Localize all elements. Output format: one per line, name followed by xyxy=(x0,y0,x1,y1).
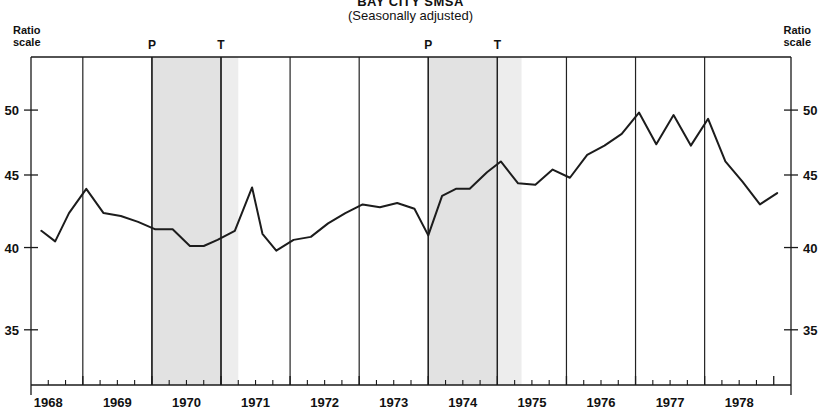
y-axis-label-right: 35 xyxy=(803,323,817,338)
x-axis-label-year: 1976 xyxy=(587,395,616,410)
chart-plot-area: 5050454540403535 19681969197019711972197… xyxy=(0,0,821,412)
x-axis-label-year: 1971 xyxy=(241,395,270,410)
recession-1969-1970 xyxy=(152,57,221,385)
recession-1973-1975 xyxy=(428,57,497,385)
cycle-marker-trough: T xyxy=(217,38,225,52)
x-axis-label-year: 1970 xyxy=(172,395,201,410)
cycle-marker-peak: P xyxy=(424,38,432,52)
x-axis-label-year: 1968 xyxy=(34,395,63,410)
y-axis-ticks-layer xyxy=(24,110,798,330)
y-axis-label-left: 35 xyxy=(5,323,19,338)
x-axis-labels-layer: 1968196919701971197219731974197519761977… xyxy=(34,395,754,410)
plot-frame xyxy=(31,57,791,395)
y-axis-label-left: 40 xyxy=(5,241,19,256)
x-axis-label-year: 1969 xyxy=(103,395,132,410)
y-axis-label-right: 45 xyxy=(803,168,817,183)
x-axis-label-year: 1973 xyxy=(379,395,408,410)
y-axis-label-left: 50 xyxy=(5,103,19,118)
shaded-bands-layer xyxy=(152,57,522,385)
x-axis-label-year: 1978 xyxy=(725,395,754,410)
x-axis-label-year: 1975 xyxy=(517,395,546,410)
cycle-marker-trough: T xyxy=(494,38,502,52)
recession-1973-1975-tail xyxy=(497,57,521,385)
x-axis-label-year: 1977 xyxy=(656,395,685,410)
y-axis-label-right: 40 xyxy=(803,241,817,256)
y-axis-label-right: 50 xyxy=(803,103,817,118)
recession-1969-1970-tail xyxy=(221,57,238,385)
x-axis-label-year: 1974 xyxy=(448,395,478,410)
x-axis-label-year: 1972 xyxy=(310,395,339,410)
chart-page: BAY CITY SMSA (Seasonally adjusted) Rati… xyxy=(0,0,821,412)
cycle-marker-labels: PTPT xyxy=(148,38,502,52)
cycle-marker-peak: P xyxy=(148,38,156,52)
y-axis-label-left: 45 xyxy=(5,168,19,183)
